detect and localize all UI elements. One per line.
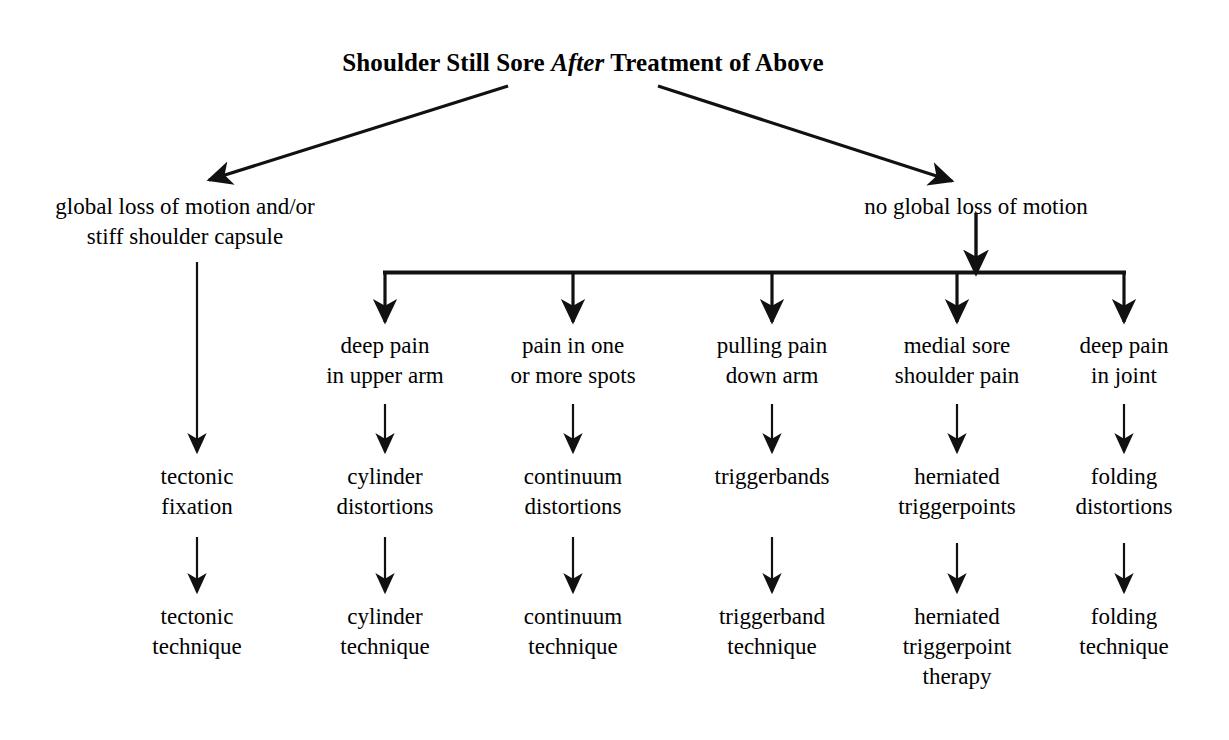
branch-right-label: no global loss of motion <box>816 192 1136 222</box>
diagnosis-node-3: triggerbands <box>680 462 865 492</box>
technique-node-1: cylinder technique <box>295 602 475 662</box>
technique-node-4: herniated triggerpoint therapy <box>862 602 1052 692</box>
symptom-node-2: pain in one or more spots <box>478 331 668 391</box>
edge-title-to-right-branch <box>658 86 952 181</box>
technique-node-3: triggerband technique <box>680 602 865 662</box>
symptom-node-3: pulling pain down arm <box>682 331 862 391</box>
symptom-node-4: medial sore shoulder pain <box>862 331 1052 391</box>
diagram-title-emphasis: After <box>551 49 604 76</box>
diagnosis-node-5: folding distortions <box>1037 462 1212 522</box>
diagram-title-prefix: Shoulder Still Sore <box>342 49 551 76</box>
flowchart-canvas: Shoulder Still Sore After Treatment of A… <box>0 0 1229 740</box>
symptom-node-5: deep pain in joint <box>1044 331 1204 391</box>
technique-node-5: folding technique <box>1037 602 1212 662</box>
diagnosis-node-2: continuum distortions <box>481 462 666 522</box>
diagram-title-suffix: Treatment of Above <box>604 49 823 76</box>
diagnosis-node-1: cylinder distortions <box>295 462 475 522</box>
diagnosis-node-0: tectonic fixation <box>107 462 287 522</box>
diagram-title: Shoulder Still Sore After Treatment of A… <box>342 49 823 77</box>
branch-left-label: global loss of motion and/or stiff shoul… <box>20 192 350 252</box>
edge-title-to-left-branch <box>209 86 508 180</box>
technique-node-2: continuum technique <box>481 602 666 662</box>
symptom-node-1: deep pain in upper arm <box>295 331 475 391</box>
diagnosis-node-4: herniated triggerpoints <box>862 462 1052 522</box>
technique-node-0: tectonic technique <box>107 602 287 662</box>
